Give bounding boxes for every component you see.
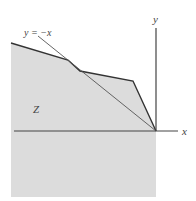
region-label: Z: [33, 103, 40, 115]
x-axis-label: x: [181, 125, 187, 137]
diagram-canvas: y x y = −x Z: [0, 0, 196, 201]
line-label: y = −x: [23, 27, 52, 38]
region-z: [11, 43, 156, 197]
y-axis-label: y: [152, 13, 158, 25]
